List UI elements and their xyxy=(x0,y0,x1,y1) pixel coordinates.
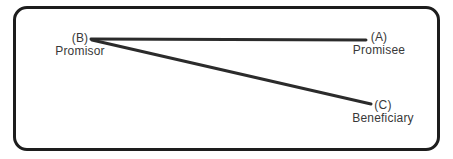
node-promisee-role: Promisee xyxy=(353,44,405,57)
diagram-edges xyxy=(0,0,453,159)
edge-promisor-promisee xyxy=(91,39,366,40)
node-promisee: (A) Promisee xyxy=(353,31,405,57)
node-beneficiary: (C) Beneficiary xyxy=(352,99,414,125)
diagram-canvas: (B) Promisor (A) Promisee (C) Beneficiar… xyxy=(0,0,453,159)
edge-promisor-beneficiary xyxy=(92,40,371,104)
node-beneficiary-role: Beneficiary xyxy=(352,112,414,125)
node-promisor-role: Promisor xyxy=(55,45,105,58)
node-promisor: (B) Promisor xyxy=(55,32,105,58)
